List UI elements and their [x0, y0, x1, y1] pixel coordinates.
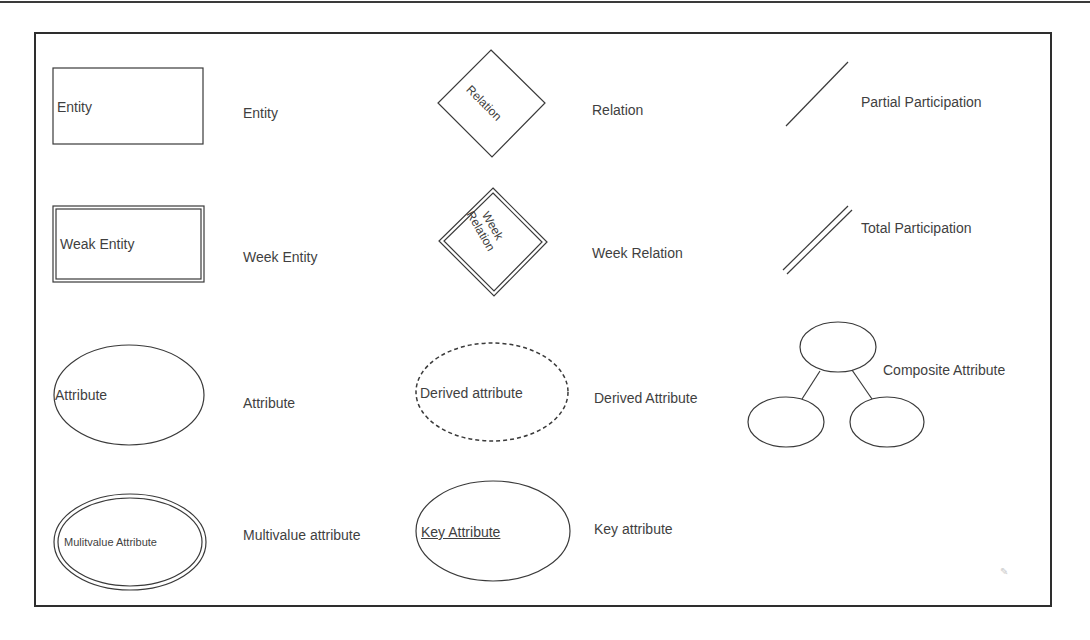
multivalue-attribute-shape-text: Mulitvalue Attribute — [64, 536, 157, 548]
key-attribute-shape-text: Key Attribute — [421, 524, 500, 540]
partial-participation-line — [786, 62, 848, 126]
entity-shape-text: Entity — [57, 99, 92, 115]
attribute-label: Attribute — [243, 395, 295, 411]
relation-label: Relation — [592, 102, 643, 118]
partial-participation-label: Partial Participation — [861, 94, 982, 110]
total-participation-label: Total Participation — [861, 220, 972, 236]
composite-attribute-shape — [748, 322, 924, 447]
derived-attribute-shape-text: Derived attribute — [420, 385, 523, 401]
weak-entity-shape-text: Weak Entity — [60, 236, 134, 252]
total-participation-line — [783, 206, 852, 274]
weak-entity-label: Week Entity — [243, 249, 317, 265]
entity-label: Entity — [243, 105, 278, 121]
composite-attribute-label: Composite Attribute — [883, 362, 1005, 378]
weak-relation-label: Week Relation — [592, 245, 683, 261]
attribute-shape-text: Attribute — [55, 387, 107, 403]
key-attribute-label: Key attribute — [594, 521, 673, 537]
faint-mark: ✎ — [1000, 566, 1008, 577]
multivalue-attribute-label: Multivalue attribute — [243, 527, 361, 543]
derived-attribute-label: Derived Attribute — [594, 390, 698, 406]
